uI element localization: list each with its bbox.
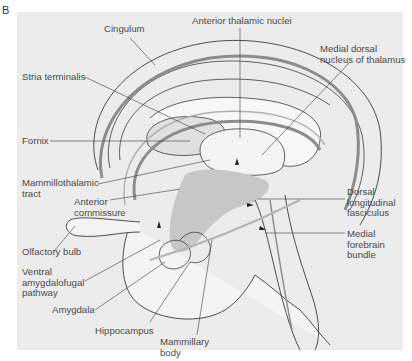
label-amygdala: Amygdala	[52, 305, 95, 316]
label-hippocampus: Hippocampus	[95, 326, 154, 337]
label-olfactory-bulb: Olfactory bulb	[22, 247, 81, 258]
limbic-system-diagram: B Cingulum Anterior thalamic nuclei Medi…	[0, 0, 412, 361]
label-fornix: Fornix	[22, 136, 49, 147]
label-mammillary-body: Mammillary body	[160, 337, 209, 358]
label-ventral-amygdalofugal-pathway: Ventral amygdalofugal pathway	[22, 267, 84, 299]
label-anterior-commissure: Anterior commissure	[74, 197, 126, 218]
label-stria-terminalis: Stria terminalis	[22, 72, 85, 83]
thalamus	[200, 129, 285, 175]
label-medial-dorsal-nucleus: Medial dorsal nucleus of thalamus	[320, 44, 405, 65]
panel-letter: B	[2, 4, 9, 16]
label-anterior-thalamic-nuclei: Anterior thalamic nuclei	[192, 16, 292, 27]
label-dorsal-longitudinal-fasciculus: Dorsal longitudinal fasciculus	[347, 187, 396, 219]
label-cingulum: Cingulum	[104, 24, 145, 35]
label-medial-forebrain-bundle: Medial forebrain bundle	[347, 229, 385, 261]
